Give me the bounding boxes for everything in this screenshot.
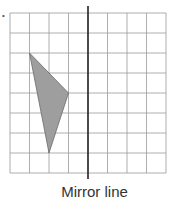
mirror-line-label: Mirror line xyxy=(0,183,169,200)
bullet-marker: • xyxy=(2,11,5,20)
mirror-diagram: • xyxy=(0,0,169,204)
